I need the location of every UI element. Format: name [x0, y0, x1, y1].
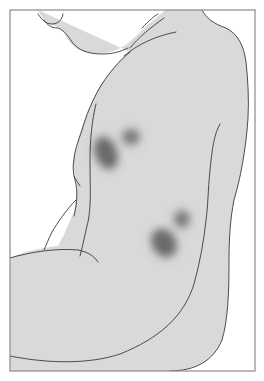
- lesion-upper-right: [122, 129, 140, 145]
- lesion-lower-right: [174, 210, 190, 228]
- medical-illustration: Line illustration of a seated person's t…: [0, 0, 264, 381]
- illustration-canvas: [0, 0, 264, 381]
- body-silhouette: [10, 10, 248, 371]
